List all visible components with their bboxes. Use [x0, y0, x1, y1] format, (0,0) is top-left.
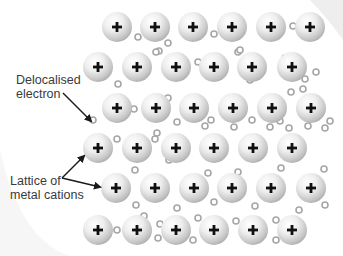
electron-dot	[305, 123, 311, 129]
plus-icon	[291, 225, 294, 235]
label-line: Delocalised	[16, 73, 81, 87]
metal-cation	[199, 133, 229, 163]
label-line: electron	[16, 87, 81, 101]
plus-icon	[291, 62, 294, 72]
plus-icon	[232, 103, 235, 113]
metal-cation	[161, 215, 191, 245]
electron-dot	[278, 165, 284, 171]
plus-icon	[310, 103, 313, 113]
metal-cation	[256, 173, 286, 203]
metal-cation	[217, 173, 247, 203]
electron-dot	[237, 47, 243, 53]
metal-cation	[161, 133, 191, 163]
metal-cation	[296, 173, 326, 203]
plus-icon	[115, 183, 118, 193]
metal-cation	[101, 173, 131, 203]
metal-cation	[140, 12, 170, 42]
metal-cation	[257, 93, 287, 123]
electron-dot	[115, 81, 121, 87]
electron-dot	[114, 136, 120, 142]
metal-cation	[83, 52, 113, 82]
metal-cation	[277, 215, 307, 245]
electron-dot	[211, 31, 217, 37]
plus-icon	[252, 225, 255, 235]
electron-dot	[322, 202, 328, 208]
metal-cation	[83, 133, 113, 163]
plus-icon	[231, 183, 234, 193]
electron-dot	[208, 117, 214, 123]
plus-icon	[213, 225, 216, 235]
plus-icon	[97, 225, 100, 235]
metal-cation	[161, 52, 191, 82]
electron-dot	[211, 199, 217, 205]
electron-dot	[252, 203, 258, 209]
plus-icon	[309, 22, 312, 32]
plus-icon	[155, 103, 158, 113]
metal-cation	[122, 52, 152, 82]
plus-icon	[175, 62, 178, 72]
electron-dot	[273, 217, 279, 223]
electron-dot	[233, 218, 239, 224]
electron-dot	[288, 89, 294, 95]
electron-dot	[154, 130, 160, 136]
plus-icon	[193, 103, 196, 113]
electron-dot	[132, 167, 138, 173]
metal-cation	[122, 133, 152, 163]
plus-icon	[116, 103, 119, 113]
plus-icon	[270, 183, 273, 193]
plus-icon	[291, 143, 294, 153]
background-arc-left	[0, 150, 70, 256]
electron-dot	[114, 227, 120, 233]
metallic-bonding-diagram: Delocalised electron Lattice of metal ca…	[0, 0, 343, 256]
electron-dot	[195, 215, 201, 221]
plus-icon	[136, 225, 139, 235]
electron-dot	[133, 202, 139, 208]
metal-cation	[199, 52, 229, 82]
plus-icon	[213, 62, 216, 72]
electron-dot	[300, 86, 306, 92]
plus-icon	[231, 22, 234, 32]
metal-cation	[179, 93, 209, 123]
electron-dot	[135, 34, 141, 40]
metal-cation	[199, 215, 229, 245]
metal-cation	[122, 215, 152, 245]
electron-dot	[296, 207, 302, 213]
metal-cation	[256, 12, 286, 42]
electron-dot	[174, 119, 180, 125]
metal-cation	[140, 173, 170, 203]
plus-icon	[154, 22, 157, 32]
plus-icon	[251, 62, 254, 72]
metal-cation	[102, 12, 132, 42]
electron-dot	[202, 123, 208, 129]
plus-icon	[154, 183, 157, 193]
electron-dot	[231, 124, 237, 130]
electron-dot	[313, 69, 319, 75]
electron-dot	[165, 40, 171, 46]
metal-cation	[238, 133, 268, 163]
metal-cation	[178, 12, 208, 42]
plus-icon	[97, 143, 100, 153]
metal-cation	[237, 52, 267, 82]
plus-icon	[270, 22, 273, 32]
delocalised-electron-label: Delocalised electron	[16, 73, 81, 101]
metal-cation	[238, 215, 268, 245]
electron-dot	[322, 125, 328, 131]
label-line: metal cations	[10, 188, 84, 202]
plus-icon	[116, 22, 119, 32]
electron-dot	[249, 117, 255, 123]
metal-cation	[277, 52, 307, 82]
plus-icon	[192, 22, 195, 32]
metal-cation	[296, 93, 326, 123]
lattice-of-metal-cations-label: Lattice of metal cations	[10, 174, 84, 202]
plus-icon	[175, 143, 178, 153]
plus-icon	[136, 143, 139, 153]
metal-cation	[83, 215, 113, 245]
electron-dot	[155, 235, 161, 241]
plus-icon	[252, 143, 255, 153]
electron-dot	[273, 237, 279, 243]
metal-cation	[277, 133, 307, 163]
electron-dot	[327, 118, 333, 124]
electron-dot	[205, 170, 211, 176]
plus-icon	[213, 143, 216, 153]
plus-icon	[175, 225, 178, 235]
